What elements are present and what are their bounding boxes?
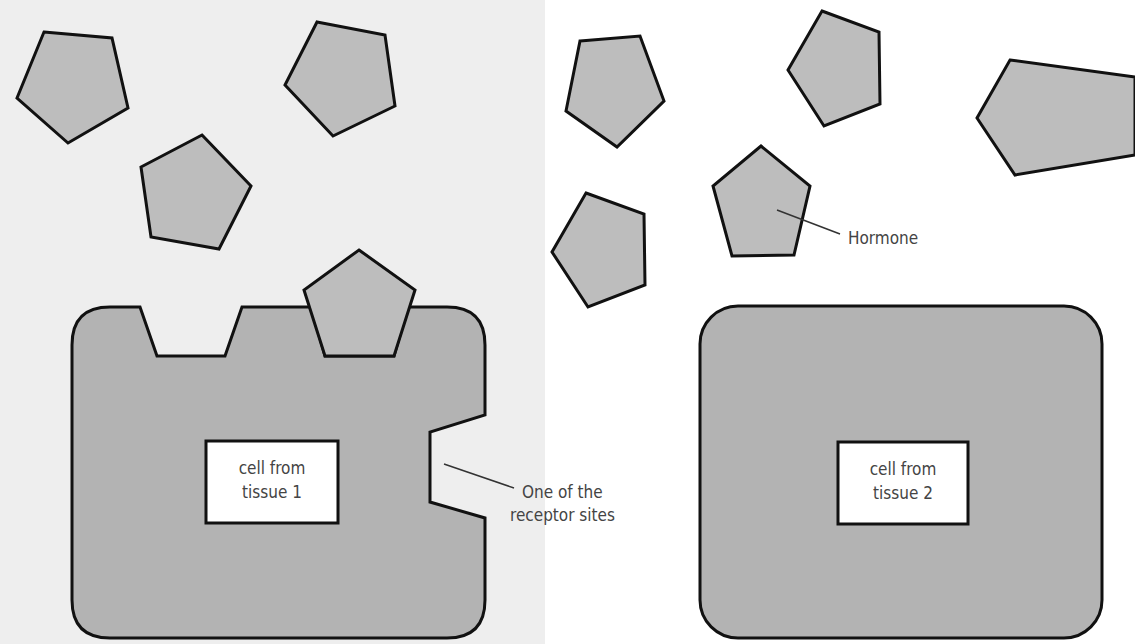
cell-label-tissue-2-line2: tissue 2: [873, 483, 933, 503]
hormone-label: Hormone: [848, 228, 918, 248]
cell-label-tissue-1-line2: tissue 1: [242, 482, 302, 502]
cell-label-tissue-1-line1: cell from: [239, 458, 306, 478]
receptor-label-line2: receptor sites: [510, 505, 615, 525]
cell-label-tissue-2-line1: cell from: [870, 459, 937, 479]
receptor-label-line1: One of the: [522, 482, 603, 502]
diagram-canvas: cell from tissue 1 One of the receptor s…: [0, 0, 1135, 644]
